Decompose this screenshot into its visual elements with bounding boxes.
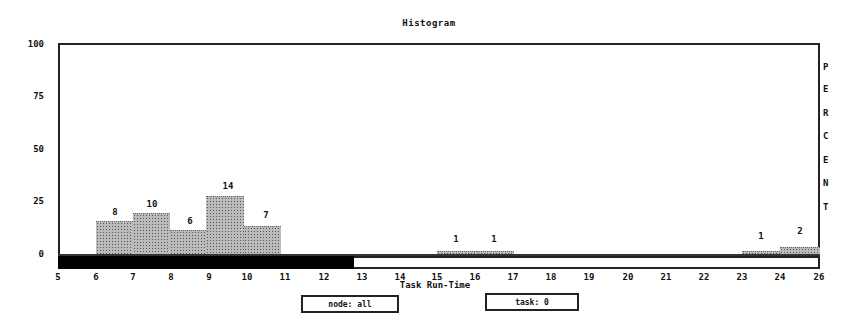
progress-end-cap — [818, 256, 820, 269]
ylabel-letter: E — [823, 84, 828, 94]
node-selector-label: node: all — [328, 300, 371, 309]
ylabel-letter: E — [823, 155, 828, 165]
node-selector-button[interactable]: node: all — [301, 295, 399, 313]
histogram-bar — [244, 226, 281, 256]
bar-label: 8 — [100, 207, 130, 217]
bar-label: 6 — [175, 216, 205, 226]
x-axis-label: Task Run-Time — [6, 280, 858, 290]
histogram-bar — [133, 213, 170, 256]
bar-label: 1 — [746, 231, 776, 241]
ylabel-letter: T — [823, 202, 828, 212]
chart-title: Histogram — [0, 18, 858, 28]
y-tick-100: 100 — [8, 39, 44, 49]
bar-label: 7 — [251, 210, 281, 220]
histogram-bar — [170, 230, 206, 256]
bar-label: 1 — [441, 234, 471, 244]
histogram-bar — [206, 196, 244, 256]
ylabel-letter: R — [823, 108, 828, 118]
task-selector-button[interactable]: task: 0 — [485, 293, 579, 311]
histogram-bar — [96, 221, 133, 256]
y-tick-50: 50 — [8, 144, 44, 154]
y-tick-25: 25 — [8, 196, 44, 206]
bar-label: 1 — [479, 234, 509, 244]
y-tick-0: 0 — [8, 249, 44, 259]
ylabel-letter: C — [823, 131, 828, 141]
y-tick-75: 75 — [8, 91, 44, 101]
ylabel-letter: P — [823, 62, 828, 72]
ylabel-letter: N — [823, 178, 828, 188]
bar-label: 14 — [213, 181, 243, 191]
progress-fill — [58, 256, 354, 269]
bar-label: 10 — [137, 199, 167, 209]
bar-label: 2 — [785, 226, 815, 236]
task-selector-label: task: 0 — [515, 298, 549, 307]
